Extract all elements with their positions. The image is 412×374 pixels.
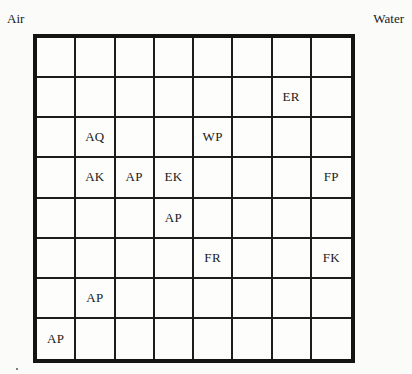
- grid-cell: [273, 279, 312, 319]
- grid-cell: [233, 118, 272, 158]
- grid-cell: [273, 158, 312, 198]
- grid-cell: [194, 38, 233, 78]
- grid-cell: [273, 38, 312, 78]
- grid-cell: [116, 78, 155, 118]
- grid-cell: FR: [194, 239, 233, 279]
- grid-cell: [37, 158, 76, 198]
- grid-cell: [155, 279, 194, 319]
- grid-cell: AQ: [76, 118, 115, 158]
- grid-cell: [233, 239, 272, 279]
- grid-cell: [233, 38, 272, 78]
- grid-cell: [233, 279, 272, 319]
- grid-cell: WP: [194, 118, 233, 158]
- grid-cell: [37, 118, 76, 158]
- grid-cell: [76, 38, 115, 78]
- grid-cell: [37, 199, 76, 239]
- grid-cell: [37, 239, 76, 279]
- grid-cell: [116, 118, 155, 158]
- grid-cell: [116, 279, 155, 319]
- grid-cell: [155, 38, 194, 78]
- grid-cell: ER: [273, 78, 312, 118]
- grid-cell: [37, 279, 76, 319]
- grid-cell: [233, 319, 272, 359]
- grid-cell: [194, 78, 233, 118]
- grid-cell: [273, 199, 312, 239]
- grid-cell: AP: [37, 319, 76, 359]
- grid-cell: [273, 239, 312, 279]
- grid-cell: [233, 158, 272, 198]
- grid-cell: [155, 118, 194, 158]
- grid-cell: [312, 199, 351, 239]
- grid-cell: [273, 118, 312, 158]
- grid-cell: [155, 78, 194, 118]
- grid-cell: [116, 319, 155, 359]
- grid-cell: [37, 38, 76, 78]
- grid-cell: AP: [155, 199, 194, 239]
- grid-cell: AP: [76, 279, 115, 319]
- grid-cell: [312, 279, 351, 319]
- grid-cell: AK: [76, 158, 115, 198]
- grid-cell: [116, 199, 155, 239]
- grid-cell: [312, 319, 351, 359]
- grid-cell: [76, 239, 115, 279]
- grid-cell: EK: [155, 158, 194, 198]
- grid-cell: [312, 38, 351, 78]
- air-label: Air: [7, 11, 24, 27]
- grid-cell: [312, 118, 351, 158]
- grid-cell: [312, 78, 351, 118]
- grid-cell: [194, 279, 233, 319]
- grid-cell: FK: [312, 239, 351, 279]
- grid-cell: [273, 319, 312, 359]
- grid-cell: [194, 199, 233, 239]
- grid-cell: [76, 78, 115, 118]
- grid-cell: AP: [116, 158, 155, 198]
- grid-cell: [37, 78, 76, 118]
- grid-cell: [194, 158, 233, 198]
- grid-cell: [76, 319, 115, 359]
- element-grid: ERAQWPAKAPEKFPAPFRFKAPAP: [33, 34, 355, 363]
- grid-cell: [116, 38, 155, 78]
- stray-mark: [16, 368, 18, 370]
- water-label: Water: [373, 11, 404, 27]
- grid-cell: [233, 199, 272, 239]
- grid-cell: [194, 319, 233, 359]
- grid-cell: [155, 319, 194, 359]
- grid-cell: FP: [312, 158, 351, 198]
- grid-cell: [116, 239, 155, 279]
- grid-cell: [233, 78, 272, 118]
- grid-cell: [76, 199, 115, 239]
- grid-cell: [155, 239, 194, 279]
